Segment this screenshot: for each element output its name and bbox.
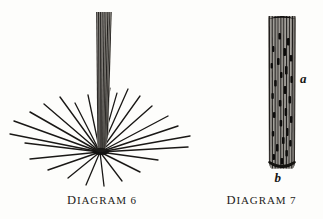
caption-diagram-7: DIAGRAM 7	[200, 193, 323, 208]
figure-diagram-6: DIAGRAM 6	[0, 0, 200, 219]
figure-diagram-7: a b DIAGRAM 7	[200, 0, 323, 219]
column-stripes	[266, 12, 298, 172]
diagram-6-artwork	[0, 0, 200, 219]
plate-canvas: DIAGRAM 6	[0, 0, 323, 219]
caption-6-lead: D	[67, 193, 77, 207]
label-a: a	[300, 71, 307, 86]
bundle-knot-upper	[95, 148, 107, 152]
label-b: b	[275, 170, 282, 185]
caption-7-rest: IAGRAM 7	[236, 194, 296, 206]
diagram-7-artwork: a b	[200, 0, 323, 219]
caption-6-rest: IAGRAM 6	[77, 194, 137, 206]
cylinder-column	[266, 12, 298, 172]
caption-diagram-6: DIAGRAM 6	[2, 193, 202, 208]
caption-7-lead: D	[227, 193, 237, 207]
bundle-stripes	[95, 10, 113, 155]
